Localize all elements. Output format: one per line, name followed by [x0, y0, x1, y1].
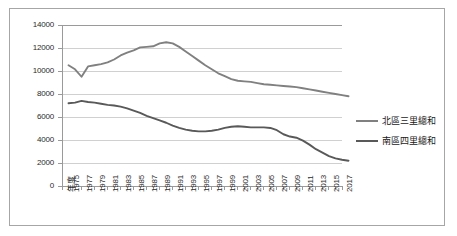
x-tick-label: 1995	[202, 175, 211, 192]
x-tick-label: 2005	[267, 175, 276, 192]
x-tick-label: 2011	[306, 176, 315, 192]
x-tick-label: 1985	[137, 175, 146, 192]
x-tick-label: 2007	[280, 175, 289, 192]
x-tick-label: 1997	[215, 175, 224, 192]
x-tick-label: 2013	[319, 175, 328, 192]
gridlines	[62, 25, 342, 186]
x-tick-label: 1975	[72, 175, 81, 192]
series-line-0	[69, 42, 349, 96]
x-tick-label: 2003	[254, 175, 263, 192]
x-tick-label: 1979	[98, 175, 107, 192]
line-chart	[10, 9, 446, 227]
x-tick-label: 1989	[163, 175, 172, 192]
y-tick-label: 14000	[12, 20, 54, 29]
x-tick-label: 1991	[176, 175, 185, 192]
x-tick-label: 1993	[189, 175, 198, 192]
series-line-1	[69, 101, 349, 161]
y-tick-label: 4000	[12, 135, 54, 144]
legend-label-north: 北區三里總和	[382, 114, 436, 127]
x-tick-label: 1981	[111, 175, 120, 192]
y-tick-label: 8000	[12, 89, 54, 98]
y-tick-label: 10000	[12, 66, 54, 75]
y-tick-marks	[58, 25, 62, 186]
x-tick-label: 2017	[345, 175, 354, 192]
y-tick-label: 12000	[12, 43, 54, 52]
legend-swatch-1	[356, 140, 378, 142]
legend-label-south: 南區四里總和	[382, 134, 436, 147]
y-tick-label: 2000	[12, 158, 54, 167]
x-tick-label: 2001	[241, 175, 250, 192]
x-tick-label: 1983	[124, 175, 133, 192]
x-tick-label: 1987	[150, 175, 159, 192]
y-tick-label: 6000	[12, 112, 54, 121]
series-lines	[69, 42, 349, 160]
chart-frame: 02000400060008000100001200014000 年度19751…	[9, 8, 445, 226]
x-tick-label: 2015	[332, 175, 341, 192]
x-tick-label: 1977	[85, 175, 94, 192]
y-tick-label: 0	[12, 181, 54, 190]
x-tick-label: 1999	[228, 175, 237, 192]
x-tick-label: 2009	[293, 175, 302, 192]
legend-swatch-0	[356, 120, 378, 122]
